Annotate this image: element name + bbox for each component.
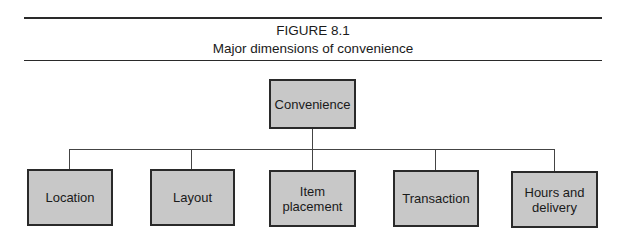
connector-layout <box>191 149 192 169</box>
child-node-layout: Layout <box>150 169 235 226</box>
figure-title: Major dimensions of convenience <box>24 40 602 58</box>
child-node-transaction: Transaction <box>393 170 479 227</box>
child-node-hours-delivery: Hours and delivery <box>511 171 598 228</box>
connector-item-placement <box>312 149 313 170</box>
connector-root-stem <box>312 129 313 149</box>
connector-transaction <box>435 149 436 170</box>
child-node-item-placement: Item placement <box>269 170 356 227</box>
child-node-hours-delivery-label: Hours and delivery <box>523 185 587 215</box>
figure-number: FIGURE 8.1 <box>24 22 602 40</box>
root-node-convenience: Convenience <box>269 79 356 129</box>
connector-hours-delivery <box>554 149 555 171</box>
child-node-location: Location <box>27 169 113 226</box>
child-node-item-placement-label: Item placement <box>283 184 343 214</box>
connector-location <box>69 149 70 169</box>
bottom-rule <box>24 60 602 61</box>
top-rule <box>24 17 602 19</box>
